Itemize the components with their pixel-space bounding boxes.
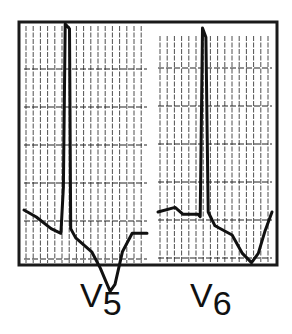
lead-number: 6: [213, 284, 232, 322]
lead-letter: V: [80, 276, 103, 314]
lead-label-v5: V5: [80, 276, 122, 315]
lead-number: 5: [103, 284, 122, 322]
ecg-figure: [0, 0, 292, 334]
lead-label-v6: V6: [190, 276, 232, 315]
lead-letter: V: [190, 276, 213, 314]
